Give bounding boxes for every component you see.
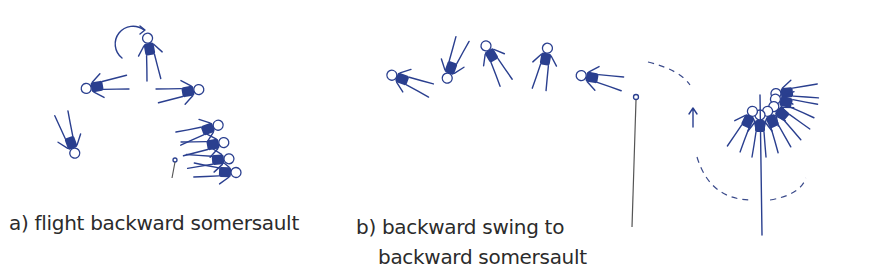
panel-a-illustration	[49, 26, 241, 185]
panel-b-illustration	[383, 35, 819, 235]
caption-a: a) flight backward somersault	[9, 208, 299, 238]
caption-b-line2: backward somersault	[356, 242, 587, 272]
gymnastics-diagram: a) flight backward somersault b) backwar…	[0, 0, 876, 278]
caption-a-text: a) flight backward somersault	[9, 211, 299, 235]
caption-b: b) backward swing to backward somersault	[356, 212, 587, 272]
caption-b-line1: b) backward swing to	[356, 215, 564, 239]
